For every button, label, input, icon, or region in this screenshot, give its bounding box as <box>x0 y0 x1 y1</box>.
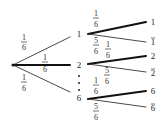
svg-text:6: 6 <box>94 87 98 96</box>
leaf-6: 6 <box>151 86 156 96</box>
svg-text:6: 6 <box>94 113 98 122</box>
root-node <box>12 64 15 67</box>
svg-text:1: 1 <box>151 37 156 47</box>
prob-6-to-6: 1 6 <box>93 76 99 96</box>
prob-root-to-2: 1 6 <box>42 53 48 74</box>
svg-text:6: 6 <box>151 103 156 113</box>
svg-text:1: 1 <box>94 9 98 18</box>
prob-2-to-not2: 5 6 <box>104 66 110 86</box>
svg-text:5: 5 <box>105 66 109 75</box>
leaf-1: 1 <box>151 17 156 27</box>
leaf-not1: 1 <box>151 37 156 47</box>
svg-text:1: 1 <box>43 53 47 62</box>
branch-2-to-2 <box>88 56 146 64</box>
node-2: 2 <box>77 60 82 70</box>
prob-1-to-not1: 5 6 <box>93 36 99 56</box>
svg-text:1: 1 <box>22 73 26 82</box>
svg-text:6: 6 <box>22 43 26 52</box>
leaf-not2: 2 <box>151 68 156 78</box>
prob-1-to-1: 1 6 <box>93 9 99 29</box>
svg-text:1: 1 <box>94 76 98 85</box>
svg-text:6: 6 <box>106 51 110 60</box>
leaf-2: 2 <box>151 51 156 61</box>
svg-text:5: 5 <box>94 102 98 111</box>
svg-text:6: 6 <box>94 20 98 29</box>
prob-root-to-1: 1 6 <box>21 33 27 52</box>
leaf-not6: 6 <box>151 103 156 113</box>
svg-text:6: 6 <box>43 65 47 74</box>
svg-text:6: 6 <box>105 77 109 86</box>
prob-6-to-not6: 5 6 <box>93 102 99 122</box>
svg-text:1: 1 <box>22 33 26 42</box>
svg-text:2: 2 <box>151 68 156 78</box>
node-1: 1 <box>77 29 82 39</box>
svg-text:6: 6 <box>94 47 98 56</box>
svg-text:1: 1 <box>106 40 110 49</box>
ellipsis-dots <box>78 75 80 91</box>
branch-2-to-not2 <box>88 64 146 72</box>
svg-text:6: 6 <box>22 84 26 93</box>
node-6: 6 <box>77 93 82 103</box>
svg-text:5: 5 <box>94 36 98 45</box>
probability-tree-diagram: 1 6 1 6 1 6 1 2 6 1 6 5 6 1 1 1 <box>0 0 160 127</box>
prob-root-to-6: 1 6 <box>21 73 27 93</box>
prob-2-to-2: 1 6 <box>105 40 111 60</box>
